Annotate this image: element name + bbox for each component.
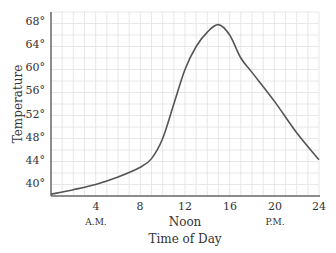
y-tick-48: 48° — [15, 131, 45, 144]
x-tick-12: 12 — [170, 200, 200, 213]
y-tick-56: 56° — [15, 84, 45, 97]
y-tick-68: 68° — [15, 15, 45, 28]
y-tick-60: 60° — [15, 61, 45, 74]
x-tick-24: 24 — [304, 200, 334, 213]
pm-label: P.M. — [255, 217, 295, 227]
x-tick-4: 4 — [81, 200, 111, 213]
gridlines — [51, 12, 319, 196]
x-tick-8: 8 — [125, 200, 155, 213]
am-label: A.M. — [76, 217, 116, 227]
noon-label: Noon — [165, 215, 205, 229]
y-tick-44: 44° — [15, 154, 45, 167]
y-tick-52: 52° — [15, 108, 45, 121]
y-tick-64: 64° — [15, 38, 45, 51]
x-tick-20: 20 — [260, 200, 290, 213]
x-tick-16: 16 — [215, 200, 245, 213]
y-tick-40: 40° — [15, 177, 45, 190]
x-axis-label: Time of Day — [135, 232, 235, 246]
